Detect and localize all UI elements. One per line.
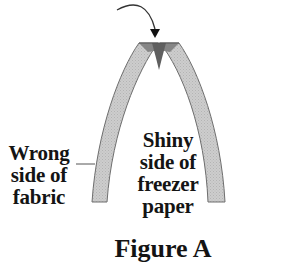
label-line: side of — [118, 151, 218, 173]
figure-caption: Figure A — [100, 234, 226, 264]
label-line: fabric — [0, 186, 78, 208]
wrong-side-label: Wrong side of fabric — [0, 142, 78, 208]
curved-arrow-icon — [117, 5, 160, 38]
label-line: freezer — [118, 173, 218, 195]
label-line: Wrong — [0, 142, 78, 164]
shiny-side-label: Shiny side of freezer paper — [118, 129, 218, 217]
label-line: Shiny — [118, 129, 218, 151]
label-line: side of — [0, 164, 78, 186]
label-line: paper — [118, 195, 218, 217]
